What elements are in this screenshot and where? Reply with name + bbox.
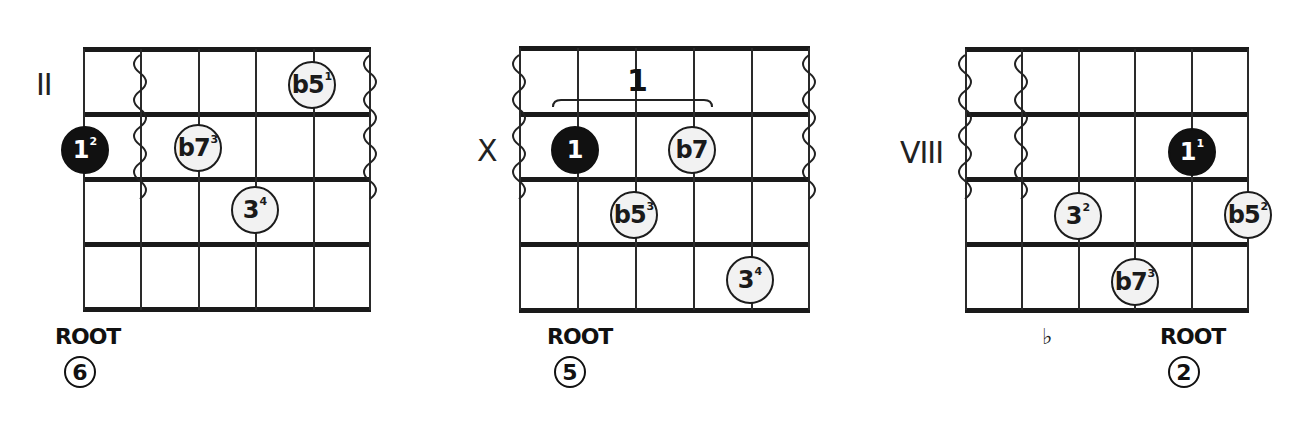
root-string-number: 2 xyxy=(1168,356,1200,388)
note-dot: 32 xyxy=(1054,192,1102,240)
string-skip-wavy-lines xyxy=(0,0,1305,423)
note-dot: b73 xyxy=(1111,258,1159,306)
note-root-dot: 11 xyxy=(1168,128,1216,176)
flat-symbol: ♭ xyxy=(1042,326,1052,348)
note-dot: b52 xyxy=(1224,191,1272,239)
chord-diagram-3: VIII 11 32 b52 b73 ♭ ROOT 2 xyxy=(0,0,1305,423)
fret-position-label: VIII xyxy=(900,138,943,168)
root-label: ROOT xyxy=(1160,326,1225,348)
